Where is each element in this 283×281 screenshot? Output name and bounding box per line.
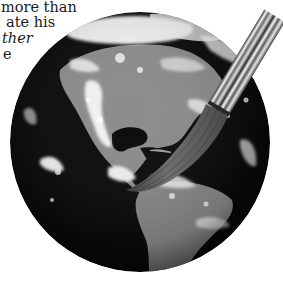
globe-with-paintbrush-illustration [0,0,283,281]
globe [10,12,270,280]
